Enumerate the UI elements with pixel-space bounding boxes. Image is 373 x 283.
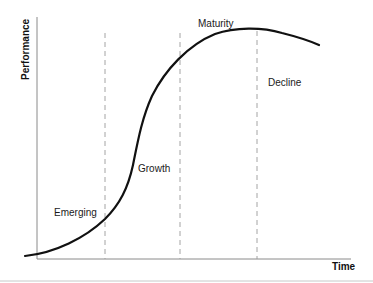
phase-label-decline: Decline [268,77,302,88]
y-axis-title: Performance [20,18,31,80]
x-axis-title: Time [332,261,356,272]
phase-label-emerging: Emerging [54,207,97,218]
phase-label-maturity: Maturity [198,18,234,29]
lifecycle-curve [25,29,319,256]
phase-label-growth: Growth [138,163,170,174]
lifecycle-chart: Performance Time Emerging Growth Maturit… [0,0,373,283]
